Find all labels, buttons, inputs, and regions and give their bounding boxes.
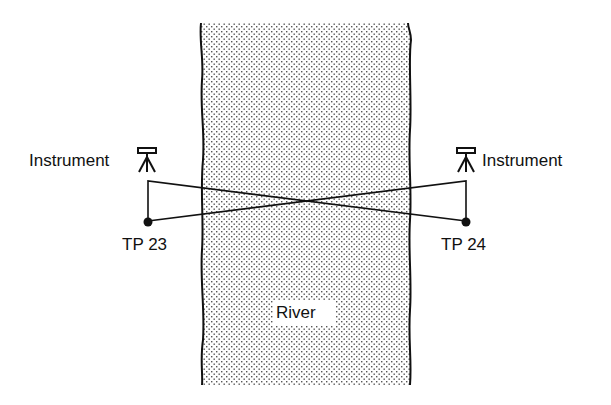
river-label: River — [276, 304, 316, 321]
diagram-canvas — [0, 0, 611, 405]
tp23-point — [144, 218, 153, 227]
left-instrument-label: Instrument — [29, 152, 109, 169]
left-instrument-icon — [138, 148, 156, 172]
tp24-point — [462, 218, 471, 227]
river — [201, 23, 411, 385]
right-instrument-label: Instrument — [482, 152, 562, 169]
river-bank-left — [201, 23, 204, 385]
tp24-label: TP 24 — [441, 236, 486, 253]
right-instrument-icon — [457, 148, 475, 172]
tp23-label: TP 23 — [122, 236, 167, 253]
